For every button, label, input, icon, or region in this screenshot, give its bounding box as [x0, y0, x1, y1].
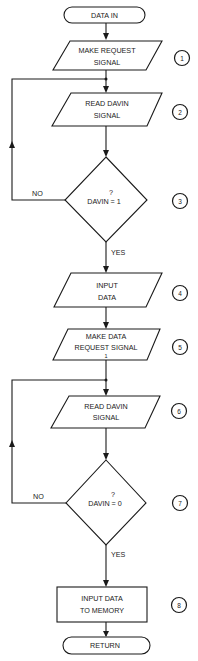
svg-text:4: 4 [178, 290, 182, 297]
step-6-read-davin-signal: READ DAVIN SIGNAL [51, 396, 160, 428]
step-3-no-label: NO [32, 189, 43, 198]
step-number-8: 8 [172, 598, 187, 613]
step-number-2: 2 [173, 105, 188, 120]
step-4-line-1: INPUT [96, 281, 118, 290]
step-number-1: 1 [175, 51, 190, 66]
step-3-decision-davin-equals-1: ? DAVIN = 1 [65, 157, 147, 242]
step-7-yes-label: YES [111, 550, 126, 559]
step-7-decision-davin-equals-0: ? DAVIN = 0 [66, 460, 146, 545]
step-6-line-1: READ DAVIN [84, 402, 127, 411]
step-5-make-data-request-signal: MAKE DATA REQUEST SIGNAL 1 [53, 329, 160, 360]
svg-text:3: 3 [178, 198, 182, 205]
step-5-line-3: 1 [104, 353, 107, 359]
step-3-yes-label: YES [111, 248, 126, 257]
step-6-line-2: SIGNAL [93, 413, 119, 422]
step-3-condition: DAVIN = 1 [87, 197, 121, 206]
step-5-line-1: MAKE DATA [86, 332, 127, 341]
step-4-input-data: INPUT DATA [54, 273, 162, 307]
step-1-line-2: SIGNAL [94, 58, 120, 67]
step-4-line-2: DATA [98, 293, 116, 302]
step-number-3: 3 [173, 194, 188, 209]
svg-text:7: 7 [178, 500, 182, 507]
step-number-6: 6 [172, 404, 187, 419]
end-terminal: RETURN [63, 637, 150, 654]
step-8-input-data-to-memory: INPUT DATA TO MEMORY [57, 587, 147, 622]
step-1-make-request-signal: MAKE REQUEST SIGNAL [53, 41, 162, 70]
step-number-4: 4 [173, 286, 188, 301]
step-8-line-2: TO MEMORY [80, 606, 124, 615]
svg-text:5: 5 [178, 344, 182, 351]
svg-text:8: 8 [177, 602, 181, 609]
step-7-no-label: NO [33, 492, 44, 501]
step-2-line-1: READ DAVIN [85, 99, 128, 108]
flowchart: DATA IN MAKE REQUEST SIGNAL 1 READ DAVIN… [0, 0, 198, 661]
step-number-5: 5 [173, 340, 188, 355]
svg-text:2: 2 [178, 109, 182, 116]
step-5-line-2: REQUEST SIGNAL [75, 343, 138, 352]
step-2-line-2: SIGNAL [94, 111, 120, 120]
step-3-question-mark: ? [109, 188, 113, 197]
step-1-line-1: MAKE REQUEST [78, 46, 136, 55]
step-number-7: 7 [173, 496, 188, 511]
start-terminal: DATA IN [64, 7, 145, 23]
end-label: RETURN [90, 641, 120, 650]
start-label: DATA IN [91, 11, 118, 20]
step-8-line-1: INPUT DATA [81, 594, 123, 603]
svg-text:6: 6 [177, 408, 181, 415]
step-7-question-mark: ? [111, 490, 115, 499]
step-7-condition: DAVIN = 0 [88, 499, 122, 508]
step-2-read-davin-signal: READ DAVIN SIGNAL [52, 93, 162, 126]
svg-text:1: 1 [180, 55, 184, 62]
